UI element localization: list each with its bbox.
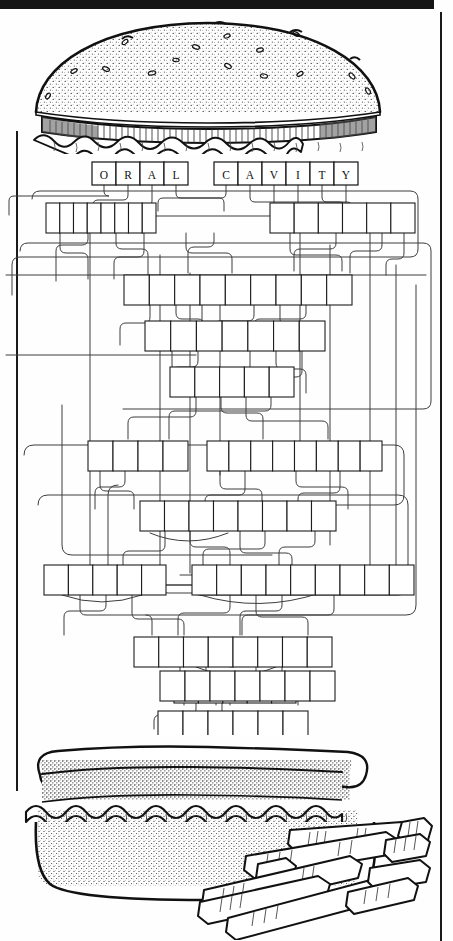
blank-letter-box[interactable] [238,501,263,531]
blank-letter-box[interactable] [214,501,239,531]
blank-letter-box[interactable] [60,203,74,233]
blank-letter-box[interactable] [283,637,308,667]
burger-bottom-and-fries [18,740,438,940]
blank-letter-box[interactable] [134,637,159,667]
blank-letter-box[interactable] [235,671,260,701]
blank-letter-box[interactable] [208,711,233,735]
blank-letter-box[interactable] [283,711,308,735]
blank-letter-box[interactable] [196,321,222,351]
blank-letter-box[interactable] [159,637,184,667]
blank-letter-box[interactable] [210,671,235,701]
blank-letter-box[interactable] [115,203,129,233]
blank-letter-box[interactable] [189,501,214,531]
blank-letter-box[interactable] [389,565,414,595]
letter-cell: A [148,169,157,181]
blank-letter-box[interactable] [318,203,342,233]
blank-letter-box[interactable] [220,367,245,397]
blank-letter-box[interactable] [93,565,117,595]
blank-letter-box[interactable] [74,203,88,233]
blank-letter-box[interactable] [225,275,250,305]
blank-letter-box[interactable] [142,565,166,595]
blank-letter-box[interactable] [142,203,156,233]
blank-letter-box[interactable] [307,637,332,667]
blank-letter-box[interactable] [113,441,138,471]
blank-letter-box[interactable] [367,203,391,233]
blank-letter-box[interactable] [299,321,325,351]
letter-cell: V [270,169,279,181]
blank-letter-box[interactable] [270,203,294,233]
letter-cell: A [246,169,255,181]
blank-letter-box[interactable] [171,321,197,351]
blank-letter-box[interactable] [87,203,101,233]
blank-box-row [124,275,352,305]
blank-letter-box[interactable] [185,671,210,701]
blank-letter-box[interactable] [266,565,291,595]
blank-letter-box[interactable] [192,565,217,595]
blank-letter-box[interactable] [248,321,274,351]
blank-letter-box[interactable] [222,321,248,351]
blank-letter-box[interactable] [365,565,390,595]
blank-letter-box[interactable] [285,671,310,701]
blank-letter-box[interactable] [184,637,209,667]
blank-letter-box[interactable] [208,637,233,667]
blank-letter-box[interactable] [241,565,266,595]
blank-letter-box[interactable] [276,275,301,305]
blank-letter-box[interactable] [183,711,208,735]
blank-letter-box[interactable] [312,501,337,531]
blank-letter-box[interactable] [145,321,171,351]
blank-letter-box[interactable] [258,637,283,667]
blank-letter-box[interactable] [149,275,174,305]
scan-artifact-bar [0,0,434,9]
blank-box-row [170,367,294,397]
blank-letter-box[interactable] [195,367,220,397]
blank-letter-box[interactable] [343,203,367,233]
blank-letter-box[interactable] [295,441,317,471]
blank-letter-box[interactable] [233,637,258,667]
blank-letter-box[interactable] [138,441,163,471]
blank-letter-box[interactable] [274,321,300,351]
blank-letter-box[interactable] [68,565,92,595]
blank-letter-box[interactable] [391,203,415,233]
blank-letter-box[interactable] [251,275,276,305]
blank-letter-box[interactable] [316,441,338,471]
blank-letter-box[interactable] [163,441,188,471]
blank-letter-box[interactable] [301,275,326,305]
blank-box-rows [44,203,415,735]
blank-letter-box[interactable] [338,441,360,471]
blank-letter-box[interactable] [217,565,242,595]
blank-letter-box[interactable] [327,275,352,305]
blank-letter-box[interactable] [287,501,312,531]
blank-letter-box[interactable] [310,671,335,701]
blank-letter-box[interactable] [251,441,273,471]
blank-letter-box[interactable] [269,367,294,397]
blank-letter-box[interactable] [207,441,229,471]
blank-letter-box[interactable] [260,671,285,701]
blank-letter-box[interactable] [291,565,316,595]
blank-letter-box[interactable] [200,275,225,305]
blank-letter-box[interactable] [165,501,190,531]
blank-letter-box[interactable] [244,367,269,397]
blank-letter-box[interactable] [175,275,200,305]
blank-letter-box[interactable] [273,441,295,471]
blank-letter-box[interactable] [129,203,143,233]
blank-letter-box[interactable] [294,203,318,233]
blank-box-row [46,203,415,233]
blank-letter-box[interactable] [233,711,258,735]
blank-letter-box[interactable] [158,711,183,735]
blank-letter-box[interactable] [258,711,283,735]
blank-letter-box[interactable] [263,501,288,531]
blank-letter-box[interactable] [117,565,141,595]
blank-letter-box[interactable] [101,203,115,233]
blank-letter-box[interactable] [315,565,340,595]
blank-letter-box[interactable] [229,441,251,471]
blank-letter-box[interactable] [340,565,365,595]
blank-letter-box[interactable] [160,671,185,701]
blank-letter-box[interactable] [360,441,382,471]
blank-letter-box[interactable] [124,275,149,305]
blank-letter-box[interactable] [44,565,68,595]
blank-letter-box[interactable] [46,203,60,233]
blank-letter-box[interactable] [88,441,113,471]
blank-letter-box[interactable] [140,501,165,531]
blank-letter-box[interactable] [170,367,195,397]
letter-cell: Y [342,169,351,181]
